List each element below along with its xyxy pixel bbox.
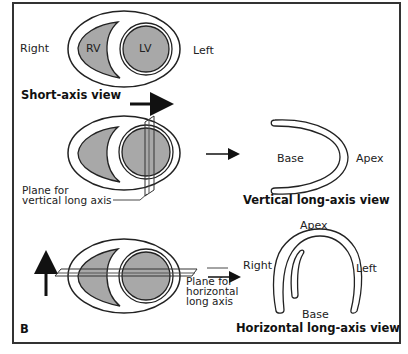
vertical-apex-label: Apex <box>356 153 384 164</box>
horizontal-right-label: Right <box>243 260 272 271</box>
panel-label: B <box>20 324 29 335</box>
horizontal-long-axis-shape <box>274 229 362 313</box>
horizontal-base-label: Base <box>302 309 329 320</box>
horizontal-apex-label: Apex <box>300 220 328 231</box>
short-axis-heart <box>68 11 180 87</box>
vertical-plane-heart <box>68 116 180 200</box>
horizontal-plane-label-line3: long axis <box>186 296 233 306</box>
vertical-plane-label-line2: vertical long axis <box>22 195 112 205</box>
short-axis-left-label: Left <box>193 45 214 56</box>
short-axis-right-label: Right <box>20 43 49 54</box>
horizontal-caption: Horizontal long-axis view <box>236 323 400 334</box>
vertical-caption: Vertical long-axis view <box>243 195 390 206</box>
short-axis-caption: Short-axis view <box>21 90 121 101</box>
vertical-base-label: Base <box>277 153 304 164</box>
horizontal-left-label: Left <box>356 263 377 274</box>
lv-label: LV <box>139 43 151 54</box>
rv-label: RV <box>86 43 101 54</box>
